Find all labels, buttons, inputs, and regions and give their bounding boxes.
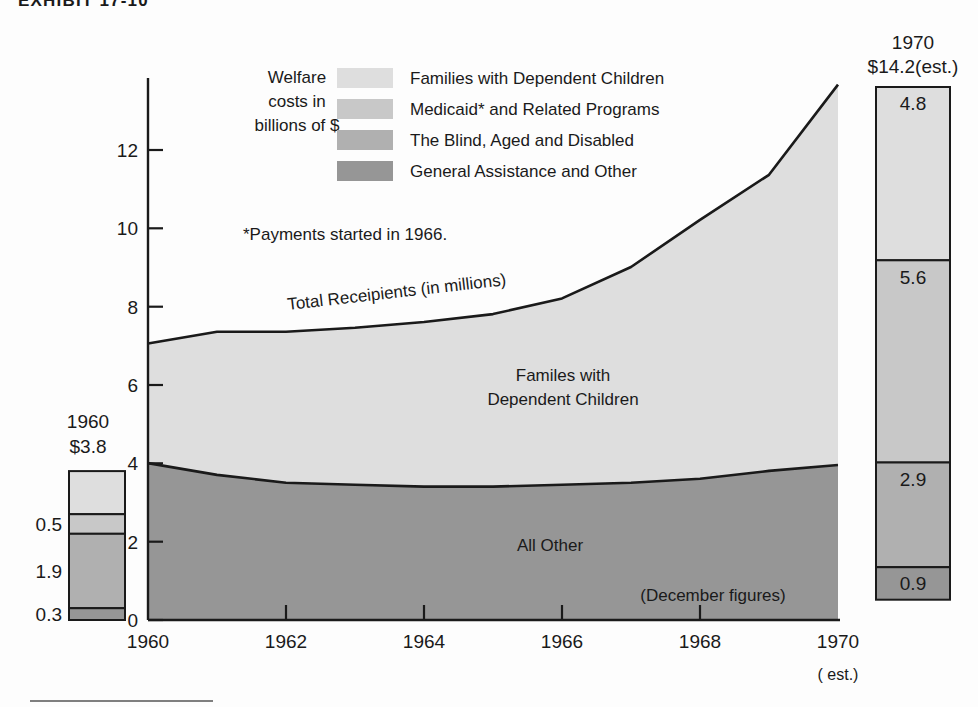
bar-1960: 1960 $3.8 0.5 1.9 0.3 <box>36 411 125 625</box>
y-tick-label-6: 6 <box>127 375 138 396</box>
legend-swatch-medicaid <box>337 99 393 119</box>
bar-1960-segment-blind-aged-disabled <box>69 534 125 608</box>
welfare-costs-chart: 0 2 4 6 8 10 12 1960 1962 1964 1966 1968… <box>0 0 978 707</box>
total-recipients-label: Total Receipients (in millions) <box>286 270 507 314</box>
area-all-other-label: All Other <box>517 536 583 555</box>
axis-title-line2: costs in <box>268 92 326 111</box>
legend-label-medicaid: Medicaid* and Related Programs <box>410 100 659 119</box>
x-tick-label-1966: 1966 <box>541 631 583 652</box>
x-tick-label-1962: 1962 <box>265 631 307 652</box>
x-tick-label-1960: 1960 <box>127 631 169 652</box>
axis-title-line1: Welfare <box>268 68 326 87</box>
legend-label-blind-aged-disabled: The Blind, Aged and Disabled <box>410 131 634 150</box>
bar-1960-year: 1960 <box>67 411 109 432</box>
bar-1960-segment-general-assistance <box>69 608 125 620</box>
axis-title-line3: billions of $ <box>254 116 340 135</box>
bar-1960-segment-medicaid <box>69 514 125 534</box>
bar-1960-value-blind-aged-disabled: 1.9 <box>36 561 62 582</box>
bar-1970-year: 1970 <box>892 32 934 53</box>
bar-1960-value-general-assistance: 0.3 <box>36 604 62 625</box>
y-tick-label-10: 10 <box>117 218 138 239</box>
bar-1970-value-families: 4.8 <box>900 93 926 114</box>
x-tick-label-1970: 1970 <box>817 631 859 652</box>
legend-swatch-blind-aged-disabled <box>337 130 393 150</box>
bar-1970-segment-medicaid <box>876 260 950 462</box>
bar-1960-total: $3.8 <box>70 436 107 457</box>
december-figures-note: (December figures) <box>640 586 786 605</box>
bar-1970-value-general-assistance: 0.9 <box>900 573 926 594</box>
legend-label-families: Families with Dependent Children <box>410 69 664 88</box>
y-tick-label-12: 12 <box>117 140 138 161</box>
y-tick-label-0: 0 <box>127 610 138 631</box>
bar-1970-total: $14.2(est.) <box>868 56 959 77</box>
legend-swatch-general-assistance <box>337 161 393 181</box>
y-tick-label-2: 2 <box>127 532 138 553</box>
legend-swatch-families <box>337 68 393 88</box>
bar-1960-value-medicaid: 0.5 <box>36 514 62 535</box>
bar-1970: 1970 $14.2(est.) 4.8 5.6 2.9 0.9 <box>868 32 959 600</box>
medicaid-footnote: *Payments started in 1966. <box>243 225 447 244</box>
legend-label-general-assistance: General Assistance and Other <box>410 162 637 181</box>
area-families-label-line2: Dependent Children <box>487 390 638 409</box>
x-axis-est-note: ( est.) <box>818 666 859 683</box>
area-families-label-line1: Familes with <box>516 366 610 385</box>
bar-1970-value-medicaid: 5.6 <box>900 267 926 288</box>
x-tick-label-1964: 1964 <box>403 631 446 652</box>
chart-legend: Families with Dependent Children Medicai… <box>337 68 664 181</box>
y-tick-label-8: 8 <box>127 297 138 318</box>
bar-1960-segment-families <box>69 471 125 514</box>
bar-1970-value-blind-aged-disabled: 2.9 <box>900 469 926 490</box>
exhibit-figure: EXHIBIT 17-10 0 2 4 6 8 10 12 <box>0 0 978 707</box>
y-tick-label-4: 4 <box>127 453 138 474</box>
x-tick-label-1968: 1968 <box>679 631 721 652</box>
